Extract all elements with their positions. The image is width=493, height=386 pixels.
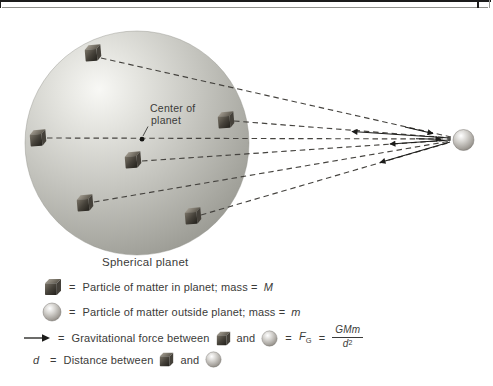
mass-symbol-M: M (264, 281, 273, 293)
legend-text: Gravitational force between (72, 332, 210, 344)
legend-text: Distance between (64, 354, 154, 366)
planet-circle (25, 31, 249, 255)
equals-sign: = (68, 306, 77, 318)
textbook-figure-page: Center of planet Spherical planet = Part… (0, 0, 493, 386)
sphere-icon (205, 351, 222, 368)
force-arrow-icon (24, 333, 51, 343)
gravity-diagram: Center of planet Spherical planet (0, 0, 493, 272)
legend-row-gravitational-force: = Gravitational force between and = FG =… (0, 327, 363, 349)
equals-sign: = (68, 281, 77, 293)
and-text: and (237, 332, 256, 344)
and-text: and (180, 354, 199, 366)
cube-icon (216, 331, 231, 346)
force-formula-fraction: GMm d2 (332, 325, 363, 349)
equals-sign: = (57, 332, 66, 344)
mass-symbol-m: m (291, 306, 300, 318)
distance-symbol-d: d (33, 354, 43, 366)
equals-sign: = (49, 354, 58, 366)
legend-row-particle-in-planet: = Particle of matter in planet; mass = M (0, 278, 273, 296)
force-arrow-toward-planet-1 (352, 132, 450, 139)
legend-text: Particle of matter outside planet; mass … (83, 306, 286, 318)
equals-sign: = (284, 332, 293, 344)
planet-caption: Spherical planet (102, 256, 189, 268)
legend-text: Particle of matter in planet; mass = (83, 281, 258, 293)
outside-particle-sphere (453, 130, 474, 151)
equals-sign: = (318, 332, 327, 344)
cube-icon (44, 278, 62, 296)
sphere-icon (261, 330, 278, 347)
force-symbol: FG (299, 330, 312, 345)
sphere-icon (42, 302, 62, 322)
legend-row-particle-outside-planet: = Particle of matter outside planet; mas… (0, 302, 301, 322)
force-arrow-toward-particle-1 (405, 127, 433, 134)
legend-row-distance: d = Distance between and (0, 351, 222, 368)
force-arrow-toward-planet-3 (380, 142, 450, 163)
planet-center-dot (140, 137, 145, 142)
force-arrow-toward-planet-2 (390, 140, 450, 144)
cube-icon (159, 352, 174, 367)
